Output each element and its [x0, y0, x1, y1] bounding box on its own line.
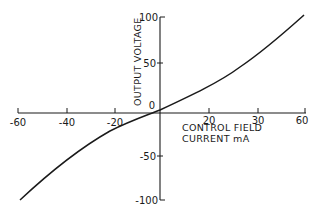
data-curve [20, 15, 304, 200]
origin-label: 0 [149, 100, 155, 111]
x-axis-title-line2: CURRENT mA [182, 133, 250, 144]
x-tick-label: -20 [107, 117, 123, 128]
y-tick-label: -100 [135, 195, 158, 206]
y-tick-label: 50 [143, 58, 156, 69]
x-tick-label: 60 [296, 115, 309, 126]
x-tick-label: -60 [10, 117, 26, 128]
y-tick-label: -50 [140, 151, 156, 162]
transfer-characteristic-chart: -60 -40 -20 20 30 60 0 100 50 -50 -100 O… [0, 0, 317, 214]
x-tick-label: -40 [59, 117, 75, 128]
x-axis-title-line1: CONTROL FIELD [182, 122, 262, 133]
y-axis-title: OUTPUT VOLTAGE [132, 18, 143, 107]
